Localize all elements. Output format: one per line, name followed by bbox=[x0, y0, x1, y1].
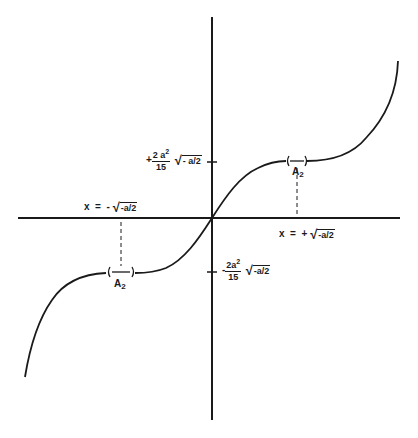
function-graph bbox=[0, 0, 418, 438]
a2-lower-sub: 2 bbox=[121, 282, 125, 291]
curve-left-lower bbox=[25, 273, 106, 377]
lower-numerator: 2a bbox=[226, 260, 236, 270]
upper-exponent: 2 bbox=[165, 148, 169, 155]
upper-radical: √- a/2 bbox=[175, 154, 202, 167]
lower-radical: √-a/2 bbox=[246, 264, 271, 277]
x-left-label: x = - √-a/2 bbox=[84, 201, 137, 214]
lower-denominator: 15 bbox=[228, 272, 238, 282]
x-left-radical: √-a/2 bbox=[113, 201, 138, 214]
upper-fraction: 2 a215 bbox=[152, 148, 170, 172]
x-right-prefix: x = + bbox=[279, 228, 307, 239]
a2-upper-sub: 2 bbox=[299, 170, 303, 179]
x-right-radicand: -a/2 bbox=[317, 229, 335, 240]
lower-fraction: 2a215 bbox=[225, 258, 241, 282]
x-right-radical: √-a/2 bbox=[310, 228, 335, 241]
lower-radicand: -a/2 bbox=[253, 265, 271, 276]
a2-upper-label: A2 bbox=[292, 167, 304, 179]
upper-denominator: 15 bbox=[156, 162, 166, 172]
x-left-radicand: -a/2 bbox=[120, 202, 138, 213]
upper-tick-label: +2 a215 √- a/2 bbox=[146, 148, 202, 172]
upper-radicand: - a/2 bbox=[182, 155, 202, 166]
x-right-label: x = + √-a/2 bbox=[279, 228, 335, 241]
a2-upper-bracket bbox=[288, 156, 307, 166]
x-left-prefix: x = - bbox=[84, 201, 110, 212]
lower-tick-label: -2a215 √-a/2 bbox=[222, 258, 270, 282]
curve-right-upper bbox=[307, 61, 398, 161]
a2-lower-label: A2 bbox=[114, 279, 126, 291]
lower-exponent: 2 bbox=[236, 258, 240, 265]
curve-right bbox=[212, 161, 286, 218]
curve-left bbox=[135, 218, 212, 273]
a2-lower-bracket bbox=[109, 267, 134, 277]
upper-numerator: 2 a bbox=[153, 150, 166, 160]
